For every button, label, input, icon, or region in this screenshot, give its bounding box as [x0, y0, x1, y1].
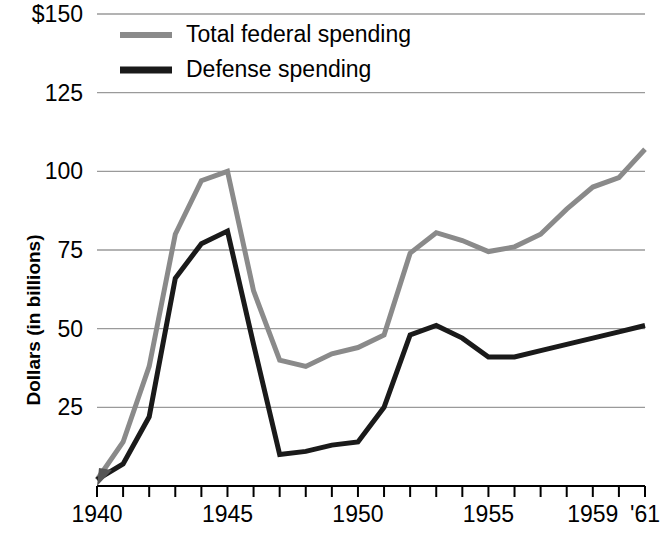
x-axis-tick-label: 1940 — [71, 501, 122, 527]
y-axis-tick-label: 100 — [45, 158, 83, 184]
x-axis-tick-label: 1950 — [332, 501, 383, 527]
x-axis-tick-labels: 19401945195019551959'61 — [71, 501, 660, 527]
y-axis-tick-label: 50 — [57, 316, 83, 342]
y-axis-tick-label: $150 — [32, 1, 83, 27]
series-line-2 — [97, 231, 645, 480]
legend-label-1: Total federal spending — [186, 21, 411, 47]
y-axis-title: Dollars (in billions) — [23, 234, 44, 405]
chart-container: 255075100125$150 19401945195019551959'61… — [0, 0, 671, 535]
y-axis-tick-label: 75 — [57, 237, 83, 263]
chart-legend: Total federal spendingDefense spending — [120, 21, 411, 82]
x-axis-tick-label: 1959 — [567, 501, 618, 527]
x-axis-tickmarks — [97, 486, 645, 497]
x-axis-tick-label: 1945 — [202, 501, 253, 527]
series-line-1 — [97, 149, 645, 479]
x-axis-tick-label: 1955 — [463, 501, 514, 527]
y-axis-tick-label: 125 — [45, 80, 83, 106]
origin-arrow-icon — [97, 468, 112, 486]
y-axis-tick-label: 25 — [57, 394, 83, 420]
legend-label-2: Defense spending — [186, 56, 371, 82]
x-axis-tick-label: '61 — [630, 501, 660, 527]
line-chart: 255075100125$150 19401945195019551959'61… — [0, 0, 671, 535]
data-series — [97, 149, 645, 479]
